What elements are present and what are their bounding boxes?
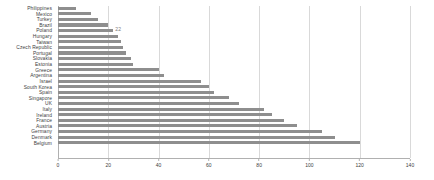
bar: [58, 113, 272, 116]
x-tick-label: 120: [356, 162, 364, 168]
tick-mark: [410, 159, 411, 161]
x-tick-20: 20: [106, 159, 112, 168]
bar: [58, 80, 201, 83]
x-tick-140: 140: [406, 159, 414, 168]
x-tick-0: 0: [57, 159, 60, 168]
tick-mark: [208, 159, 209, 161]
bar: [58, 96, 229, 99]
bar: [58, 63, 133, 66]
bar: [58, 91, 214, 94]
tick-mark: [359, 159, 360, 161]
tick-mark: [158, 159, 159, 161]
x-tick-label: 140: [406, 162, 414, 168]
tick-mark: [108, 159, 109, 161]
bar: [58, 108, 264, 111]
x-tick-80: 80: [256, 159, 262, 168]
bar: [58, 68, 159, 71]
bar-value-label: 22: [115, 26, 121, 32]
bar: [58, 57, 131, 60]
bar: [58, 29, 113, 32]
x-tick-label: 20: [106, 162, 112, 168]
bar: [58, 141, 360, 144]
x-tick-label: 80: [256, 162, 262, 168]
tick-mark: [259, 159, 260, 161]
bar: [58, 18, 98, 21]
x-tick-label: 40: [156, 162, 162, 168]
x-axis-ticks: 020406080100120140: [58, 159, 410, 171]
bar-chart: PhilippinesMexicoTurkeyBrazilPolandHunga…: [0, 0, 434, 180]
category-label: Belgium: [0, 141, 55, 147]
category-axis-labels: PhilippinesMexicoTurkeyBrazilPolandHunga…: [0, 6, 55, 158]
bar: [58, 23, 108, 26]
bar: [58, 124, 297, 127]
x-tick-label: 60: [206, 162, 212, 168]
bar: [58, 136, 335, 139]
bar: [58, 119, 284, 122]
bar: [58, 12, 91, 15]
bar-rows: 22: [58, 6, 410, 158]
bar-row: [58, 141, 410, 147]
bar: [58, 40, 121, 43]
bar: [58, 102, 239, 105]
x-tick-label: 0: [57, 162, 60, 168]
x-tick-60: 60: [206, 159, 212, 168]
bar: [58, 7, 76, 10]
bar: [58, 51, 126, 54]
x-tick-label: 100: [305, 162, 313, 168]
tick-mark: [309, 159, 310, 161]
x-tick-100: 100: [305, 159, 313, 168]
x-tick-40: 40: [156, 159, 162, 168]
x-tick-120: 120: [356, 159, 364, 168]
bar: [58, 130, 322, 133]
bar: [58, 85, 209, 88]
gridline-140: [410, 6, 411, 158]
bar: [58, 74, 164, 77]
bar: [58, 46, 123, 49]
plot-area: 22: [58, 6, 410, 158]
bar: [58, 35, 118, 38]
tick-mark: [58, 159, 59, 161]
